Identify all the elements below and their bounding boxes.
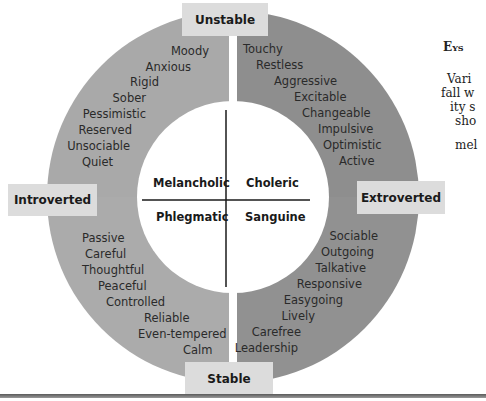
trait-reserved: Reserved [78,123,132,137]
temperament-melancholic: Melancholic [153,176,230,190]
trait-moody: Moody [171,44,209,58]
trait-sociable: Sociable [330,229,378,243]
side-heading: Eys [443,40,464,55]
trait-controlled: Controlled [106,295,165,309]
trait-thoughtful: Thoughtful [82,263,144,277]
trait-even-tempered: Even-tempered [138,327,227,341]
trait-careful: Careful [85,247,126,261]
trait-unsociable: Unsociable [67,139,130,153]
label-stable: Stable [185,362,273,396]
label-unstable: Unstable [182,3,268,36]
label-introverted: Introverted [8,184,97,216]
trait-outgoing: Outgoing [321,245,374,259]
trait-touchy: Touchy [243,42,283,56]
trait-peaceful: Peaceful [98,279,147,293]
trait-optimistic: Optimistic [323,138,381,152]
trait-rigid: Rigid [130,75,159,89]
side-line-5: mel [455,138,477,153]
trait-changeable: Changeable [302,106,371,120]
trait-pessimistic: Pessimistic [83,107,146,121]
trait-sober: Sober [113,91,146,105]
trait-easygoing: Easygoing [284,293,343,307]
trait-impulsive: Impulsive [318,122,373,136]
trait-aggressive: Aggressive [274,74,337,88]
side-line-1: Vari [447,72,471,87]
trait-carefree: Carefree [252,325,301,339]
trait-lively: Lively [282,309,315,323]
trait-anxious: Anxious [146,60,191,74]
temperament-sanguine: Sanguine [245,210,306,224]
trait-reliable: Reliable [144,311,190,325]
side-line-2: fall w [441,86,474,101]
temperament-choleric: Choleric [246,176,299,190]
trait-leadership: Leadership [235,341,298,355]
trait-excitable: Excitable [294,90,347,104]
side-line-3: ity s [450,100,475,115]
trait-restless: Restless [256,58,303,72]
trait-passive: Passive [82,231,125,245]
bottom-rule [0,394,486,398]
label-extroverted: Extroverted [357,181,445,214]
temperament-phlegmatic: Phlegmatic [156,210,229,224]
trait-talkative: Talkative [316,261,366,275]
trait-active: Active [339,154,375,168]
trait-calm: Calm [183,343,212,357]
eysenck-personality-diagram: Unstable Stable Introverted Extroverted … [0,0,486,401]
inner-circle [137,101,329,293]
side-line-4: sho [455,114,476,129]
trait-responsive: Responsive [297,277,362,291]
trait-quiet: Quiet [82,155,113,169]
